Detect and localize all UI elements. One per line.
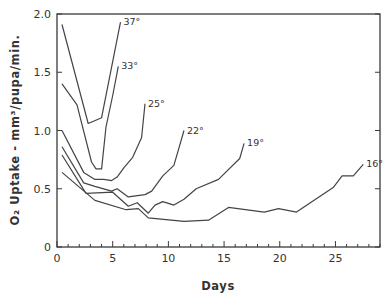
series-16c-label: 16° — [366, 158, 383, 169]
series-25c-line — [62, 104, 145, 181]
x-tick-label: 15 — [217, 252, 231, 265]
y-axis-ticks: 00.51.01.52.0 — [34, 8, 381, 254]
x-axis-ticks: 0510152025 — [54, 241, 381, 265]
series-25c-label: 25° — [148, 98, 165, 109]
y-axis-title: O₂ Uptake - mm³/pupa/min. — [8, 35, 22, 226]
x-tick-label: 0 — [54, 252, 61, 265]
x-tick-label: 5 — [109, 252, 116, 265]
y-tick-label: 1.5 — [34, 66, 52, 79]
series-22c-label: 22° — [187, 125, 204, 136]
y-tick-label: 2.0 — [34, 8, 52, 21]
x-tick-label: 10 — [161, 252, 175, 265]
series-33c-label: 33° — [121, 60, 138, 71]
series-19c-label: 19° — [247, 137, 264, 148]
x-tick-label: 25 — [328, 252, 342, 265]
y-tick-label: 0.5 — [34, 183, 52, 196]
oxygen-uptake-chart: 0510152025 00.51.01.52.0 37°33°25°22°19°… — [0, 0, 390, 302]
series-37c-line — [62, 22, 121, 123]
series-group: 37°33°25°22°19°16° — [62, 16, 383, 221]
y-tick-label: 0 — [44, 241, 51, 254]
series-33c-line — [62, 66, 118, 168]
series-37c-label: 37° — [123, 16, 140, 27]
y-tick-label: 1.0 — [34, 125, 52, 138]
x-tick-label: 20 — [273, 252, 287, 265]
x-axis-title: Days — [201, 279, 235, 293]
series-22c-line — [62, 131, 184, 197]
